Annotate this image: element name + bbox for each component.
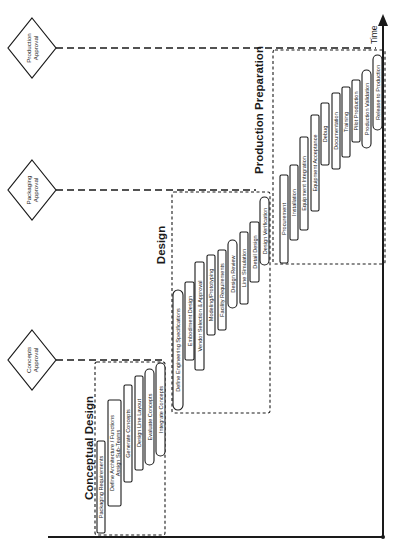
task-label: Facility Requirements (219, 263, 225, 317)
milestone-label-line2: Approval (32, 36, 39, 60)
task-release-to-production: Release to Production (373, 55, 382, 130)
task-label: Evaluate Concepts (147, 393, 153, 440)
process-timeline-diagram: Time ProductionApprovalPackagingApproval… (0, 0, 395, 547)
task-modeling-prototyping: Modeling/Prototyping (207, 255, 215, 335)
task-label: Detail Design (252, 235, 258, 268)
task-evaluate-concepts: Evaluate Concepts (145, 369, 154, 465)
task-label: Procurement (281, 203, 287, 235)
task-label: Embodiment Design (187, 296, 193, 346)
task-label: Pilot Production (353, 91, 359, 130)
milestone-label-line1: Production (25, 33, 32, 63)
task-design-review: Design Review (228, 240, 237, 308)
task-detail-design: Detail Design (250, 222, 259, 282)
time-axis-arrowhead-icon (378, 14, 388, 26)
task-vendor-selection-approval: Vendor Selection & Approval (195, 262, 204, 370)
task-label: Equipment Integration (301, 156, 307, 211)
task-label: Debug (322, 126, 328, 142)
phases: Conceptual DesignPackaging RequirementsD… (83, 46, 385, 535)
axis-origin-dot (381, 535, 385, 539)
task-define-architecture-functions: Define Architecture / FunctionsAssign Su… (108, 400, 121, 506)
task-generate-concepts: Generate Concepts (124, 385, 132, 482)
task-integrate-concepts: Integrate Concepts (156, 363, 165, 456)
phase-title: Design (155, 226, 167, 264)
task-label: Documentation (333, 112, 339, 150)
milestone-packaging: PackagingApproval (8, 160, 256, 220)
phase-title: Conceptual Design (83, 396, 95, 500)
task-procurement: Procurement (280, 175, 288, 263)
phase-conceptual-design: Conceptual DesignPackaging RequirementsD… (83, 362, 165, 535)
task-design-line-layout: Design Line Layout (135, 376, 143, 470)
phase-design: DesignDefine Engineering SpecificationsE… (155, 192, 270, 413)
task-label: Design Line Layout (136, 399, 142, 447)
task-label: Training (343, 112, 349, 132)
time-axis-label: Time (369, 25, 379, 44)
task-installation: Installation (290, 165, 298, 240)
task-label: Release to Production (375, 65, 381, 120)
task-label: Modeling/Prototyping (208, 269, 214, 322)
task-label: Line Simulation (241, 249, 247, 287)
task-label: Design Review (230, 254, 236, 292)
task-label: Equipment Acceptance (312, 134, 318, 191)
task-line-simulation: Line Simulation (240, 232, 248, 304)
task-label: Vendor Selection & Approval (197, 281, 203, 352)
task-equipment-acceptance: Equipment Acceptance (311, 115, 319, 211)
task-label: Define Engineering Specifications (175, 308, 181, 392)
task-label-secondary: Assign Sub-Teams (115, 429, 121, 476)
milestone-production: ProductionApproval (8, 18, 376, 78)
task-label: Design Verification (262, 208, 268, 254)
task-label: Generate Concepts (125, 409, 131, 458)
milestone-label-line1: Packaging (25, 175, 32, 204)
task-pilot-production: Pilot Production (352, 80, 360, 142)
phase-production-preparation: Production PreparationProcurementInstall… (253, 46, 385, 264)
task-label: Installation (291, 189, 297, 216)
task-embodiment-design: Embodiment Design (185, 282, 194, 360)
milestone-label-line1: Concepts (25, 347, 32, 373)
task-debug: Debug (321, 103, 329, 165)
task-label: Production Validation (364, 83, 370, 135)
task-production-validation: Production Validation (362, 70, 371, 148)
phase-title: Production Preparation (253, 46, 265, 174)
task-label: Packaging Requirements (98, 456, 104, 519)
milestone-label-line2: Approval (32, 348, 39, 372)
milestone-label-line2: Approval (32, 178, 39, 202)
task-define-engineering-specifications: Define Engineering Specifications (173, 290, 183, 410)
task-packaging-requirements: Packaging Requirements (97, 441, 105, 533)
task-training: Training (342, 87, 350, 157)
task-label: Integrate Concepts (158, 386, 164, 433)
task-facility-requirements: Facility Requirements (218, 250, 226, 330)
task-design-verification: Design Verification (260, 197, 269, 265)
task-documentation: Documentation (332, 93, 340, 169)
task-equipment-integration: Equipment Integration (300, 137, 308, 230)
